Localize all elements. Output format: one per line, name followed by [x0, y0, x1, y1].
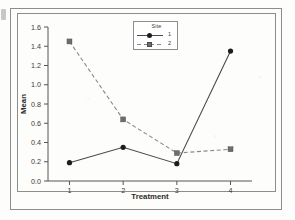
- data-point-site-2-treatment-1: [67, 39, 72, 44]
- data-point-site-1-treatment-3: [174, 161, 179, 166]
- y-axis-ticks: 0.00.20.40.60.81.01.21.41.6: [31, 23, 48, 186]
- legend-label-site-1: 1: [168, 31, 171, 37]
- series-lines-group: [69, 41, 230, 163]
- y-tick-label: 0.6: [31, 119, 41, 128]
- y-tick-label: 1.0: [31, 80, 41, 89]
- data-point-site-2-treatment-2: [121, 117, 126, 122]
- data-point-site-2-treatment-3: [174, 151, 179, 156]
- y-tick-label: 1.2: [31, 61, 41, 70]
- scanned-figure-page: 0.00.20.40.60.81.01.21.41.6 1234 Treatme…: [0, 0, 295, 220]
- x-tick-label: 3: [175, 186, 179, 195]
- data-point-site-1-treatment-2: [121, 145, 126, 150]
- chart-axes: [48, 27, 252, 181]
- legend-label-site-2: 2: [168, 40, 171, 46]
- legend-title: Site: [134, 23, 179, 29]
- series-line-site-2: [69, 41, 230, 153]
- series-line-site-1: [69, 51, 230, 164]
- series-markers-group: [67, 39, 233, 166]
- legend-square-marker-icon: [147, 42, 152, 47]
- data-point-site-1-treatment-4: [228, 48, 233, 53]
- y-tick-label: 0.4: [31, 138, 41, 147]
- data-point-site-2-treatment-4: [228, 147, 233, 152]
- y-tick-label: 0.2: [31, 157, 41, 166]
- x-tick-label: 1: [67, 186, 71, 195]
- data-point-site-1-treatment-1: [67, 160, 72, 165]
- legend-entry-site-2: 2: [134, 40, 179, 49]
- y-tick-label: 1.6: [31, 23, 41, 32]
- x-axis-title: Treatment: [131, 192, 169, 201]
- y-tick-label: 0.0: [31, 177, 41, 186]
- y-tick-label: 0.8: [31, 100, 41, 109]
- chart-legend: Site 1 2: [133, 21, 178, 50]
- x-tick-label: 2: [121, 186, 125, 195]
- legend-circle-marker-icon: [147, 33, 152, 38]
- legend-entry-site-1: 1: [134, 31, 179, 40]
- x-tick-label: 4: [229, 186, 233, 195]
- y-tick-label: 1.4: [31, 42, 41, 51]
- y-axis-title: Mean: [19, 94, 28, 114]
